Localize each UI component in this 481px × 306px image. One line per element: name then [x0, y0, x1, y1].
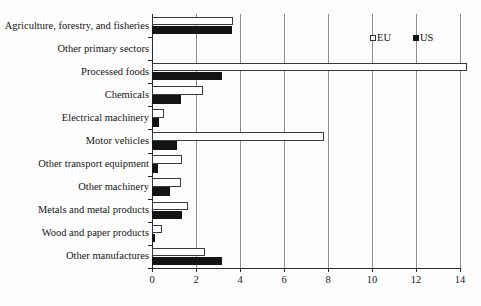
x-tick-mark [372, 268, 373, 272]
bar-eu [152, 109, 164, 118]
x-tick-mark [328, 268, 329, 272]
gridline [460, 14, 461, 268]
bar-us [152, 72, 222, 81]
bar-us [152, 257, 222, 266]
x-tick-mark [152, 268, 153, 272]
gridline [328, 14, 329, 268]
x-tick-label: 2 [184, 273, 208, 286]
bar-eu [152, 225, 162, 234]
gridline [240, 14, 241, 268]
gridline [284, 14, 285, 268]
legend-label-us: US [420, 32, 433, 44]
category-label: Metals and metal products [3, 204, 149, 216]
x-tick-label: 10 [360, 273, 384, 286]
x-tick-label: 8 [316, 273, 340, 286]
x-tick-label: 14 [448, 273, 472, 286]
legend-entry-eu: EU [370, 32, 391, 44]
category-label: Chemicals [3, 89, 149, 101]
bar-us [152, 187, 170, 196]
category-label: Other transport equipment [3, 158, 149, 170]
bar-eu [152, 17, 233, 26]
bar-us [152, 234, 155, 243]
plot-area [152, 14, 460, 268]
category-label: Electrical machinery [3, 112, 149, 124]
bar-us [152, 118, 159, 127]
x-axis-line [152, 268, 461, 269]
bar-eu [152, 248, 205, 257]
horizontal-bar-chart: 02468101214 Agriculture, forestry, and f… [0, 0, 481, 306]
x-tick-label: 6 [272, 273, 296, 286]
category-label: Agriculture, forestry, and fisheries [3, 20, 149, 32]
x-tick-mark [460, 268, 461, 272]
x-tick-label: 12 [404, 273, 428, 286]
bar-us [152, 211, 182, 220]
x-tick-label: 4 [228, 273, 252, 286]
category-label: Other primary sectors [3, 43, 149, 55]
bar-us [152, 141, 177, 150]
category-label: Processed foods [3, 66, 149, 78]
gridline [372, 14, 373, 268]
hollow-square-marker-icon [370, 35, 376, 41]
gridline [416, 14, 417, 268]
x-tick-mark [416, 268, 417, 272]
category-label: Motor vehicles [3, 135, 149, 147]
category-axis-labels: Agriculture, forestry, and fisheriesOthe… [0, 0, 149, 306]
bar-eu [152, 202, 188, 211]
bar-eu [152, 86, 203, 95]
bar-us [152, 26, 232, 35]
filled-square-marker-icon [413, 35, 419, 41]
chart-legend: EU US [370, 32, 433, 44]
category-label: Other machinery [3, 181, 149, 193]
bar-us [152, 164, 158, 173]
gridline [196, 14, 197, 268]
x-tick-mark [284, 268, 285, 272]
x-tick-mark [240, 268, 241, 272]
x-tick-mark [196, 268, 197, 272]
bar-eu [152, 63, 467, 72]
legend-label-eu: EU [377, 32, 391, 44]
category-label: Wood and paper products [3, 227, 149, 239]
bar-us [152, 95, 181, 104]
bar-eu [152, 155, 182, 164]
bar-eu [152, 132, 324, 141]
legend-entry-us: US [413, 32, 433, 44]
category-label: Other manufactures [3, 250, 149, 262]
bar-eu [152, 178, 181, 187]
